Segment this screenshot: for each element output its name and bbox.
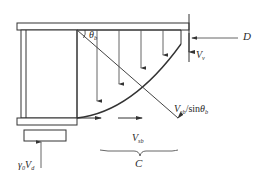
top-flange	[17, 23, 189, 30]
web-box-outer	[21, 30, 77, 118]
label-applied-load-d: D	[243, 31, 251, 42]
label-shear-vertical: Vv	[196, 50, 205, 61]
label-compression-c: C	[135, 158, 142, 169]
label-inclined-shear: Vsb/sinθb	[174, 104, 208, 115]
dimension-brace	[100, 150, 178, 156]
bottom-flange	[17, 118, 77, 125]
label-angle-theta: θb	[89, 30, 97, 41]
label-horizontal-shear: Vsb	[132, 133, 144, 144]
base-plate	[24, 130, 66, 141]
diagram-canvas: D Vv θb Vsb/sinθb Vsb C γ0Vd	[0, 0, 257, 180]
label-reaction-force: γ0Vd	[18, 160, 34, 171]
diagram-svg	[0, 0, 257, 180]
